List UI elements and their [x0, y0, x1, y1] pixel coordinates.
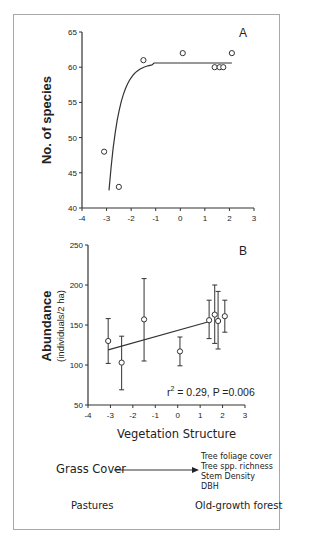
panel-a-x-tick: 0	[178, 214, 183, 223]
panel-b-x-tick: -1	[152, 411, 160, 420]
panel-b-x-tick: -2	[129, 411, 137, 420]
panel-b-data-point	[141, 317, 146, 322]
panel-b-y-tick: 200	[70, 281, 84, 290]
panel-a-x-tick: -3	[103, 214, 111, 223]
panel-b-x-tick: 1	[198, 411, 203, 420]
panel-b-data-point	[119, 360, 124, 365]
panel-b-data-point	[177, 349, 182, 354]
panel-a-ylabel: No. of species	[39, 76, 54, 164]
panel-b-y-tick: 250	[70, 241, 84, 250]
panel-b-xlabel: Vegetation Structure	[117, 427, 236, 441]
panel-b-ylabel: Abundance	[39, 291, 54, 362]
panel-b-ylabel-sub: (individuals/2 ha)	[55, 290, 66, 362]
panel-b-fit-line	[108, 321, 211, 350]
panel-a-x-tick: 3	[252, 214, 257, 223]
panel-a-y-tick: 40	[68, 204, 77, 213]
panel-a-data-point	[102, 149, 107, 154]
panel-b-x-tick: -4	[84, 411, 92, 420]
panel-a-x-tick: -4	[78, 214, 86, 223]
panel-a-data-point	[116, 184, 121, 189]
panel-b-data-point	[106, 338, 111, 343]
panel-a-data-point	[141, 58, 146, 63]
panel-b-y-tick: 100	[70, 361, 84, 370]
gradient-item-4: DBH	[201, 482, 219, 491]
panel-b-data-point	[212, 312, 217, 317]
pastures-label: Pastures	[71, 500, 113, 511]
panel-b-x-tick: 2	[220, 411, 225, 420]
panel-b-x-tick: 3	[243, 411, 248, 420]
panel-a-data-point	[221, 65, 226, 70]
panel-b-data-point	[207, 318, 212, 323]
grass-cover-label: Grass Cover	[56, 462, 126, 476]
panel-a-fit-curve	[109, 63, 232, 190]
panel-b-x-tick: 0	[175, 411, 180, 420]
panel-b-x-tick: -3	[107, 411, 115, 420]
panel-a-x-tick: 1	[203, 214, 208, 223]
panel-a-data-point	[180, 51, 185, 56]
panel-a-x-tick: 2	[227, 214, 232, 223]
panel-a-y-tick: 50	[68, 134, 77, 143]
panel-b-y-tick: 150	[70, 321, 84, 330]
panel-b-label: B	[239, 244, 247, 258]
panel-a-x-tick: -1	[152, 214, 160, 223]
panel-b-y-tick: 50	[74, 401, 83, 410]
arrow-head-icon	[192, 467, 199, 473]
panel-a-x-tick: -2	[128, 214, 136, 223]
panel-b-annotation: r2 = 0.29, P =0.006	[167, 385, 255, 398]
panel-a-label: A	[239, 26, 247, 40]
panel-b-data-point	[222, 314, 227, 319]
gradient-item-2: Tree spp. richness	[201, 462, 273, 471]
panel-a-y-tick: 45	[68, 169, 77, 178]
panel-a-data-point	[229, 51, 234, 56]
gradient-item-3: Stem Density	[201, 472, 255, 481]
panel-b-data-point	[215, 318, 220, 323]
panel-a-y-tick: 60	[68, 63, 77, 72]
panel-a-y-tick: 65	[68, 28, 77, 37]
gradient-item-1: Tree foliage cover	[201, 452, 272, 461]
old-growth-label: Old-growth forest	[195, 500, 282, 511]
panel-a-y-tick: 55	[68, 98, 77, 107]
annot-rest: = 0.29, P =0.006	[174, 386, 254, 398]
